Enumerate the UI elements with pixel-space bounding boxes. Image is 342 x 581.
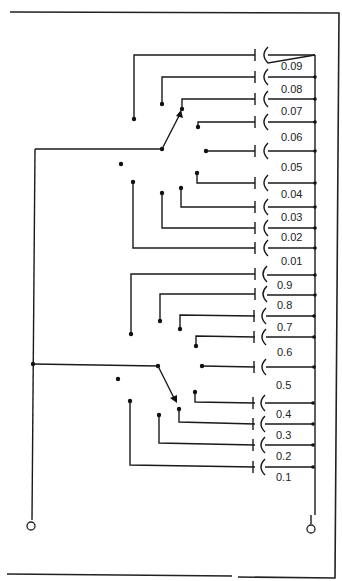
wire-0.04 (197, 173, 255, 183)
wire-0.2 (159, 415, 255, 445)
wire-0.4 (195, 392, 255, 403)
label-0.04: 0.04 (281, 188, 302, 200)
label-0.7: 0.7 (277, 321, 292, 333)
contact-0.09[interactable] (132, 117, 136, 121)
wire-0.02 (162, 193, 255, 228)
label-0.09: 0.09 (281, 60, 302, 72)
label-0.8: 0.8 (277, 299, 292, 311)
wire-0.7 (180, 315, 255, 329)
wire-0.09 (134, 55, 255, 119)
contact-0.06[interactable] (196, 125, 200, 129)
contact-0.2[interactable] (157, 413, 161, 417)
label-0.2: 0.2 (276, 450, 291, 462)
label-0.3: 0.3 (276, 429, 291, 441)
label-0.4: 0.4 (276, 408, 291, 420)
contact-0.08[interactable] (160, 102, 164, 106)
wire-0.07 (182, 99, 255, 109)
contact-0.05[interactable] (204, 149, 208, 153)
contact-0.02[interactable] (160, 191, 164, 195)
contact-off-lower[interactable] (116, 377, 120, 381)
contact-0.4[interactable] (193, 390, 197, 394)
left-terminal[interactable] (27, 522, 35, 530)
contact-0.01[interactable] (131, 180, 135, 184)
wire-0.5 (202, 366, 255, 367)
label-0.05: 0.05 (281, 161, 302, 173)
contact-0.03[interactable] (179, 186, 183, 190)
upper-decade: 0.09 0.08 0.07 0.06 0.05 0.04 0.03 0.02 … (35, 47, 317, 267)
contact-off-upper[interactable] (119, 162, 123, 166)
upper-switch-arm[interactable] (162, 112, 181, 149)
upper-capacitors (255, 47, 315, 256)
lower-decade: 0.9 0.8 0.7 0.6 0.5 0.4 0.3 0.2 0.1 (31, 266, 317, 483)
wire-0.03 (181, 188, 255, 207)
wire-0.08 (162, 77, 255, 104)
label-0.01: 0.01 (281, 255, 302, 267)
label-0.6: 0.6 (277, 346, 292, 358)
schematic-canvas: 0.09 0.08 0.07 0.06 0.05 0.04 0.03 0.02 … (0, 0, 342, 581)
contact-0.5[interactable] (200, 364, 204, 368)
lower-capacitors (253, 266, 315, 475)
contact-0.9[interactable] (129, 332, 133, 336)
label-0.03: 0.03 (281, 211, 302, 223)
contact-0.7[interactable] (178, 327, 182, 331)
contact-0.3[interactable] (177, 407, 181, 411)
label-0.07: 0.07 (281, 105, 302, 117)
contact-0.8[interactable] (158, 319, 162, 323)
contact-0.04[interactable] (195, 171, 199, 175)
contact-0.1[interactable] (128, 399, 132, 403)
label-0.06: 0.06 (281, 131, 302, 143)
right-terminal[interactable] (307, 525, 315, 533)
label-0.9: 0.9 (277, 279, 292, 291)
left-bus (32, 149, 35, 520)
left-bus-junction (31, 362, 35, 366)
label-0.1: 0.1 (276, 471, 291, 483)
wire-0.06 (198, 122, 255, 127)
wire-0.9 (131, 274, 255, 334)
lower-rotor-feed (33, 364, 158, 366)
wire-0.3 (179, 409, 255, 424)
wire-0.8 (160, 294, 255, 321)
wire-0.6 (196, 336, 255, 346)
contact-0.07[interactable] (180, 107, 184, 111)
wire-0.01 (133, 182, 255, 248)
lower-bus-junctions (311, 273, 317, 469)
label-0.5: 0.5 (276, 379, 291, 391)
wire-0.1 (130, 401, 255, 467)
label-0.08: 0.08 (281, 83, 302, 95)
contact-0.6[interactable] (194, 344, 198, 348)
upper-arrow-icon (176, 110, 183, 118)
lower-switch-arm[interactable] (158, 366, 175, 400)
label-0.02: 0.02 (281, 231, 302, 243)
